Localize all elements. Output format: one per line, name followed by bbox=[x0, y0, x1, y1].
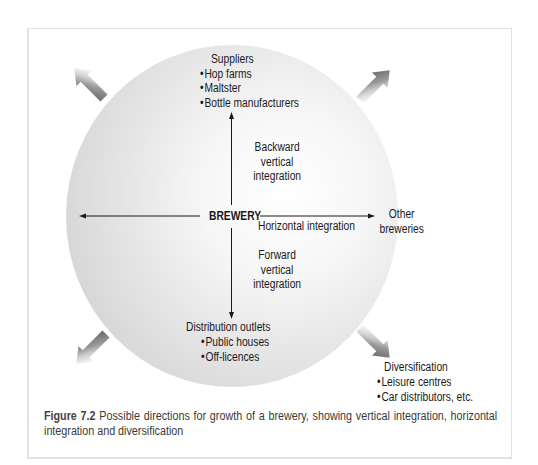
distribution-item: Public houses bbox=[201, 335, 269, 350]
supplier-item: Bottle manufacturers bbox=[200, 96, 299, 111]
diversification-item: Car distributors, etc. bbox=[377, 390, 473, 405]
figure-caption: Figure 7.2 Possible directions for growt… bbox=[44, 409, 497, 439]
label-line: integration bbox=[232, 169, 322, 184]
backward-integration-label: Backward vertical integration bbox=[232, 140, 322, 184]
diagonal-arrow-down-left-icon bbox=[69, 326, 114, 371]
distribution-heading: Distribution outlets bbox=[186, 320, 270, 335]
forward-integration-label: Forward vertical integration bbox=[232, 248, 322, 292]
label-line: integration bbox=[232, 277, 322, 292]
suppliers-heading: Suppliers bbox=[211, 52, 254, 67]
label-line: vertical bbox=[232, 155, 322, 170]
label-line: Backward bbox=[232, 140, 322, 155]
label-line: vertical bbox=[232, 263, 322, 278]
caption-text: Figure 7.2 Possible directions for growt… bbox=[44, 409, 497, 439]
diagonal-arrow-down-right-icon bbox=[352, 320, 397, 365]
label-line: breweries bbox=[373, 222, 430, 237]
supplier-item: Maltster bbox=[200, 81, 241, 96]
diversification-item: Leisure centres bbox=[377, 375, 452, 390]
caption-body: Possible directions for growth of a brew… bbox=[44, 409, 497, 438]
diagonal-arrow-up-right-icon bbox=[352, 63, 397, 108]
diagonal-arrow-up-left-icon bbox=[67, 61, 112, 106]
horizontal-integration-label: Horizontal integration bbox=[258, 219, 355, 234]
label-line: Other bbox=[373, 207, 430, 222]
label-line: Forward bbox=[232, 248, 322, 263]
distribution-item: Off-licences bbox=[201, 350, 259, 365]
diversification-heading: Diversification bbox=[384, 360, 448, 375]
supplier-item: Hop farms bbox=[200, 67, 252, 82]
brewery-center-label: BREWERY bbox=[209, 209, 261, 224]
other-breweries-label: Other breweries bbox=[373, 207, 430, 236]
figure-number: Figure 7.2 bbox=[44, 409, 96, 423]
